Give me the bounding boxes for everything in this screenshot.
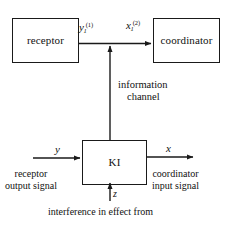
signal-label-y1: y1(1)	[79, 21, 93, 34]
signal-y1-superscript: (1)	[86, 21, 94, 28]
coordinator-block: coordinator	[153, 18, 220, 63]
interference-caption: interference in effect from	[48, 206, 153, 217]
coordinator-input-line2: input signal	[152, 180, 199, 191]
information-channel-caption: information channel	[118, 79, 168, 104]
signal-label-x: x	[166, 142, 171, 154]
receptor-block: receptor	[12, 18, 79, 63]
signal-label-y: y	[55, 143, 60, 155]
coordinator-input-line1: coordinator	[152, 168, 198, 179]
signal-y1-subscript: 1	[83, 27, 86, 34]
information-channel-line1: information	[118, 79, 168, 90]
signal-label-x1: x1(2)	[126, 19, 140, 32]
ki-block: KI	[82, 140, 147, 185]
receptor-output-line1: receptor	[15, 168, 48, 179]
coordinator-input-signal-caption: coordinator input signal	[152, 168, 199, 192]
signal-label-z: z	[113, 188, 117, 199]
ki-block-label: KI	[109, 157, 121, 168]
information-channel-line2: channel	[118, 91, 168, 103]
receptor-output-signal-caption: receptor output signal	[5, 168, 57, 192]
receptor-block-label: receptor	[27, 35, 64, 46]
diagram-canvas: receptor coordinator KI y1(1) x1(2) info…	[0, 0, 229, 226]
receptor-output-line2: output signal	[5, 180, 57, 191]
signal-x1-superscript: (2)	[133, 19, 141, 26]
signal-x1-subscript: 1	[130, 25, 133, 32]
coordinator-block-label: coordinator	[161, 35, 213, 46]
